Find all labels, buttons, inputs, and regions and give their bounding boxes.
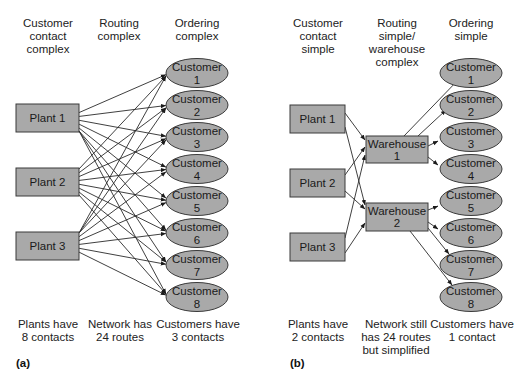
customer-node: Customer4 bbox=[166, 155, 228, 184]
customer-node: Customer3 bbox=[440, 123, 502, 152]
customer-label: Customer bbox=[446, 285, 496, 297]
route-arrow bbox=[428, 141, 438, 146]
header-line: complex bbox=[365, 56, 429, 69]
customer-number: 3 bbox=[468, 138, 474, 150]
warehouse-number: 2 bbox=[394, 217, 400, 229]
panel-a-header-routing: Routing complex bbox=[87, 17, 151, 43]
panel-a-routes bbox=[79, 75, 166, 295]
customer-label: Customer bbox=[446, 61, 496, 73]
header-line: Customer bbox=[14, 17, 82, 30]
warehouse-number: 1 bbox=[394, 150, 400, 162]
customer-number: 6 bbox=[468, 234, 474, 246]
header-line: contact bbox=[14, 30, 82, 43]
customer-number: 5 bbox=[468, 202, 474, 214]
customer-number: 4 bbox=[194, 170, 201, 182]
footer-line: Network still bbox=[358, 318, 434, 331]
customer-node: Customer5 bbox=[166, 187, 228, 216]
footer-line: Plants have bbox=[14, 318, 82, 331]
customer-label: Customer bbox=[172, 61, 222, 73]
customer-number: 8 bbox=[468, 298, 474, 310]
footer-line: 8 contacts bbox=[14, 331, 82, 344]
plant-node: Plant 3 bbox=[16, 232, 79, 260]
panel-a-header-ordering: Ordering complex bbox=[164, 17, 230, 43]
warehouse-label: Warehouse bbox=[368, 205, 426, 217]
header-line: Routing bbox=[365, 17, 429, 30]
header-line: simple/ bbox=[365, 30, 429, 43]
header-line: Customer bbox=[284, 17, 352, 30]
panel-a-footer-plants: Plants have 8 contacts bbox=[14, 318, 82, 344]
route-arrow bbox=[428, 157, 438, 165]
footer-line: has 24 routes bbox=[358, 331, 434, 344]
header-line: warehouse bbox=[365, 43, 429, 56]
customer-number: 5 bbox=[194, 202, 200, 214]
warehouse-node: Warehouse2 bbox=[366, 203, 428, 231]
header-line: Ordering bbox=[164, 17, 230, 30]
customer-node: Customer4 bbox=[440, 155, 502, 184]
header-line: complex bbox=[14, 43, 82, 56]
route-arrow bbox=[79, 252, 166, 295]
plant-node: Plant 2 bbox=[16, 168, 79, 196]
header-line: simple bbox=[441, 30, 501, 43]
footer-line: but simplified bbox=[358, 344, 434, 357]
customer-number: 3 bbox=[194, 138, 200, 150]
customer-label: Customer bbox=[172, 253, 222, 265]
customer-node: Customer6 bbox=[440, 219, 502, 248]
customer-label: Customer bbox=[446, 253, 496, 265]
panel-b-footer-network: Network still has 24 routes but simplifi… bbox=[358, 318, 434, 357]
footer-line: Plants have bbox=[283, 318, 353, 331]
customer-label: Customer bbox=[172, 157, 222, 169]
customer-label: Customer bbox=[446, 189, 496, 201]
header-line: simple bbox=[284, 43, 352, 56]
route-arrow bbox=[428, 222, 438, 229]
route-arrow bbox=[345, 223, 365, 253]
plant-label: Plant 2 bbox=[30, 176, 66, 188]
route-arrow bbox=[79, 248, 166, 264]
plant-label: Plant 2 bbox=[300, 177, 336, 189]
footer-line: 2 contacts bbox=[283, 331, 353, 344]
panel-a-tag: (a) bbox=[16, 357, 30, 369]
panel-b-footer-plants: Plants have 2 contacts bbox=[283, 318, 353, 344]
customer-label: Customer bbox=[446, 157, 496, 169]
footer-line: 3 contacts bbox=[155, 331, 241, 344]
customer-node: Customer7 bbox=[440, 251, 502, 280]
plant-label: Plant 3 bbox=[300, 241, 336, 253]
route-arrow bbox=[345, 147, 365, 175]
footer-line: 1 contact bbox=[429, 331, 515, 344]
footer-line: 24 routes bbox=[84, 331, 156, 344]
customer-node: Customer7 bbox=[166, 251, 228, 280]
panel-a-footer-network: Network has 24 routes bbox=[84, 318, 156, 344]
panel-b-tag: (b) bbox=[290, 357, 305, 369]
route-arrow bbox=[428, 206, 438, 210]
customer-label: Customer bbox=[446, 221, 496, 233]
panel-a-header-customer-contact: Customer contact complex bbox=[14, 17, 82, 56]
header-line: complex bbox=[164, 30, 230, 43]
plant-node: Plant 2 bbox=[290, 169, 345, 197]
footer-line: Customers have bbox=[155, 318, 241, 331]
customer-node: Customer8 bbox=[166, 283, 228, 312]
customer-number: 2 bbox=[194, 106, 200, 118]
header-line: contact bbox=[284, 30, 352, 43]
panel-b-header-customer-contact: Customer contact simple bbox=[284, 17, 352, 56]
header-line: Ordering bbox=[441, 17, 501, 30]
customer-label: Customer bbox=[172, 125, 222, 137]
customer-number: 7 bbox=[468, 266, 474, 278]
plant-node: Plant 1 bbox=[290, 105, 345, 133]
header-line: Routing bbox=[87, 17, 151, 30]
warehouse-node: Warehouse1 bbox=[366, 136, 428, 163]
customer-number: 1 bbox=[468, 74, 474, 86]
customer-node: Customer8 bbox=[440, 283, 502, 312]
plant-node: Plant 3 bbox=[290, 233, 345, 261]
customer-node: Customer2 bbox=[440, 91, 502, 120]
panel-b-footer-customers: Customers have 1 contact bbox=[429, 318, 515, 344]
panel-b-header-routing: Routing simple/ warehouse complex bbox=[365, 17, 429, 69]
customer-number: 6 bbox=[194, 234, 200, 246]
header-line: complex bbox=[87, 30, 151, 43]
customer-label: Customer bbox=[172, 189, 222, 201]
customer-node: Customer1 bbox=[166, 59, 228, 88]
customer-number: 8 bbox=[194, 298, 200, 310]
customer-number: 7 bbox=[194, 266, 200, 278]
plant-label: Plant 1 bbox=[30, 112, 66, 124]
customer-label: Customer bbox=[446, 93, 496, 105]
customer-label: Customer bbox=[446, 125, 496, 137]
footer-line: Customers have bbox=[429, 318, 515, 331]
